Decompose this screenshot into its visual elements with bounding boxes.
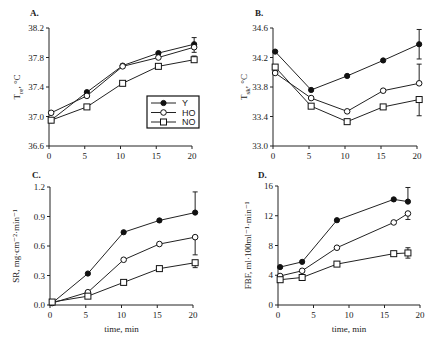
data-point-open-square (308, 103, 314, 109)
y-tick-label: 37.0 (28, 112, 44, 122)
y-tick-label: 16 (264, 181, 274, 191)
data-point-filled-circle (300, 259, 305, 264)
data-point-filled-circle (193, 210, 198, 215)
y-tick-label: 0.6 (34, 241, 46, 251)
series-y (273, 29, 422, 92)
x-axis-label: time, min (104, 324, 139, 334)
chart-panel-a: A.36.637.037.437.838.205101520Tre, °C (12, 8, 197, 161)
y-tick-label: 1.2 (34, 182, 45, 192)
data-point-open-square (84, 104, 90, 110)
chart-panel-c: C.0.00.30.60.91.205101520SR, mg·cm⁻²·min… (11, 170, 198, 334)
data-point-open-circle (156, 55, 162, 61)
data-point-open-square (49, 299, 55, 305)
data-point-open-circle (192, 234, 198, 240)
data-point-filled-circle (334, 218, 339, 223)
y-axis-label: SR, mg·cm⁻²·min⁻¹ (11, 209, 21, 283)
legend-label: HO (182, 108, 196, 118)
data-point-open-circle (48, 110, 54, 116)
figure: A.36.637.037.437.838.205101520Tre, °CB.3… (0, 0, 435, 346)
data-point-open-circle (84, 93, 90, 99)
data-point-filled-circle (405, 199, 410, 204)
data-point-open-circle (157, 241, 163, 247)
y-axis-label-unit: , °C (12, 74, 22, 88)
data-point-open-square (121, 279, 127, 285)
y-tick-label: 37.4 (28, 82, 44, 92)
data-point-open-circle (344, 109, 350, 115)
y-tick-label: 0 (269, 300, 274, 310)
x-tick-label: 0 (48, 310, 53, 320)
y-axis-label-unit: , °C (239, 74, 249, 88)
data-point-filled-circle (417, 42, 422, 47)
series-line (275, 44, 419, 90)
y-tick-label: 33.0 (252, 141, 268, 151)
data-point-open-square (192, 260, 198, 266)
data-point-open-square (277, 277, 283, 283)
data-point-filled-circle (381, 58, 386, 63)
data-point-open-square (344, 119, 350, 125)
data-point-open-square (155, 63, 161, 69)
data-point-filled-circle (391, 197, 396, 202)
series-y (278, 187, 411, 269)
y-tick-label: 38.2 (28, 23, 44, 33)
y-tick-label: 34.6 (252, 23, 268, 33)
panel-label: B. (255, 8, 263, 18)
data-point-open-square (416, 97, 422, 103)
y-tick-label: 0.3 (34, 271, 46, 281)
data-point-open-circle (121, 257, 127, 263)
x-tick-label: 20 (413, 151, 423, 161)
data-point-open-square (120, 80, 126, 86)
data-point-open-circle (416, 81, 422, 87)
data-point-open-circle (308, 95, 314, 101)
legend-label: NO (182, 117, 196, 127)
x-tick-label: 20 (416, 310, 426, 320)
data-point-open-square (380, 104, 386, 110)
x-tick-label: 5 (83, 151, 88, 161)
x-tick-label: 20 (188, 151, 198, 161)
data-point-filled-circle (161, 100, 166, 105)
data-point-open-square (405, 250, 411, 256)
y-tick-label: 37.8 (28, 53, 44, 63)
x-tick-label: 0 (47, 151, 52, 161)
x-tick-label: 10 (341, 151, 351, 161)
x-tick-label: 10 (117, 310, 127, 320)
panel-label: C. (32, 170, 41, 180)
y-tick-label: 36.6 (28, 141, 44, 151)
series-ho (277, 211, 410, 279)
x-tick-label: 10 (116, 151, 126, 161)
panel-label: D. (258, 170, 267, 180)
y-tick-label: 4 (269, 270, 274, 280)
chart-panel-d: D.048121605101520FBF, ml·100ml⁻¹·min⁻¹ti… (243, 170, 425, 334)
data-point-open-square (85, 293, 91, 299)
data-point-open-square (391, 251, 397, 257)
data-point-filled-circle (85, 271, 90, 276)
data-point-open-circle (272, 70, 278, 76)
x-tick-label: 15 (153, 310, 163, 320)
x-tick-label: 20 (189, 310, 199, 320)
x-tick-label: 15 (152, 151, 162, 161)
x-tick-label: 0 (276, 310, 281, 320)
chart-panel-b: B.33.033.433.834.234.605101520Tsk, °C (239, 8, 422, 161)
series-ho (49, 234, 198, 305)
series-y (50, 192, 198, 306)
data-point-filled-circle (273, 49, 278, 54)
y-axis-label: FBF, ml·100ml⁻¹·min⁻¹ (243, 201, 253, 289)
x-axis-label: time, min (332, 324, 367, 334)
data-point-open-square (299, 274, 305, 280)
y-axis-label: Tre, °C (12, 74, 25, 99)
data-point-open-circle (161, 110, 167, 116)
legend-label: Y (182, 98, 188, 108)
data-point-open-square (334, 261, 340, 267)
y-tick-label: 0.0 (34, 300, 46, 310)
y-tick-label: 0.9 (34, 212, 46, 222)
data-point-open-square (48, 117, 54, 123)
data-point-open-square (272, 64, 278, 70)
data-point-filled-circle (345, 73, 350, 78)
data-point-open-circle (334, 245, 340, 251)
data-point-filled-circle (278, 264, 283, 269)
data-point-open-circle (405, 211, 411, 217)
data-point-filled-circle (309, 87, 314, 92)
x-tick-label: 5 (84, 310, 89, 320)
series-line (280, 214, 408, 276)
series-no (277, 248, 411, 283)
data-point-open-circle (191, 44, 197, 50)
